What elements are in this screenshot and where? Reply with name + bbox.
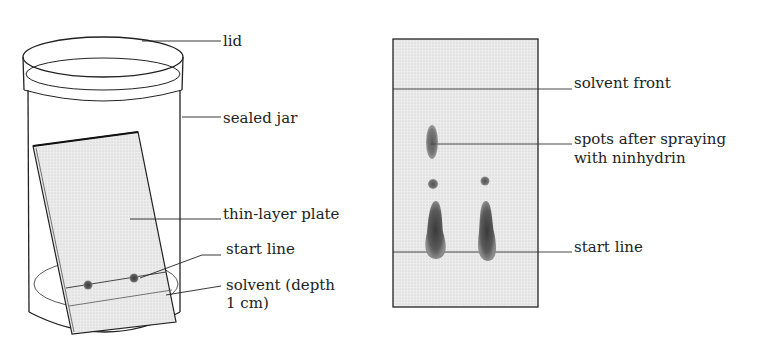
label-solvent-1: solvent (depth: [226, 276, 335, 294]
label-spots-1: spots after spraying: [574, 130, 727, 148]
spot-lane1-mid: [428, 179, 438, 189]
chromatogram-plate: [393, 39, 572, 307]
label-thin-layer-plate: thin-layer plate: [223, 205, 340, 223]
sample-spot: [84, 281, 93, 290]
label-sealed-jar: sealed jar: [223, 109, 298, 127]
lid: [23, 37, 183, 77]
label-solvent-2: 1 cm): [226, 294, 269, 312]
label-lid: lid: [223, 32, 243, 50]
label-solvent-front: solvent front: [574, 74, 671, 92]
label-start-line-right: start line: [574, 238, 643, 256]
diagram-canvas: lid sealed jar thin-layer plate start li…: [0, 0, 773, 361]
spot-lane2-mid: [481, 177, 490, 186]
sample-spot: [130, 274, 139, 283]
thin-layer-plate: [33, 132, 176, 334]
label-start-line-left: start line: [226, 240, 295, 258]
label-spots-2: with ninhydrin: [574, 149, 686, 167]
spot-lane1-top: [426, 125, 438, 159]
